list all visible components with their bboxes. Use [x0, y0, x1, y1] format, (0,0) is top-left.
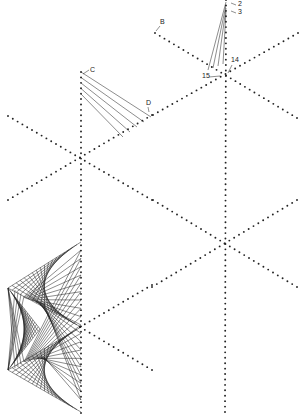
dot [225, 167, 227, 169]
dot [224, 292, 226, 294]
string-line [8, 288, 21, 364]
dot [80, 277, 82, 279]
dot [74, 159, 76, 161]
dot [224, 373, 226, 375]
dot [170, 274, 172, 276]
dot [219, 245, 221, 247]
dot [122, 182, 124, 184]
dot [80, 353, 82, 355]
dot [41, 179, 43, 181]
dot [168, 41, 170, 43]
dot [225, 135, 227, 137]
dot [225, 97, 227, 99]
dot [151, 286, 153, 288]
dot [205, 231, 207, 233]
dot [181, 216, 183, 218]
dot [80, 104, 82, 106]
dot [243, 231, 245, 233]
dot [55, 171, 57, 173]
dot [225, 42, 227, 44]
dot [80, 212, 82, 214]
dot [175, 272, 177, 274]
dot [89, 332, 91, 334]
label-leader [209, 76, 220, 77]
label-leader [231, 3, 236, 5]
dot [262, 219, 264, 221]
dot [80, 98, 82, 100]
dot [146, 287, 148, 289]
dot [137, 191, 139, 193]
dot [220, 72, 222, 74]
dot [225, 145, 227, 147]
dot [80, 114, 82, 116]
dot [224, 357, 226, 359]
dot [199, 257, 201, 259]
dot [286, 205, 288, 207]
dot [146, 366, 148, 368]
dot [65, 149, 67, 151]
dot [17, 193, 19, 195]
dot [258, 94, 260, 96]
dot [80, 363, 82, 365]
dot [69, 151, 71, 153]
dot [267, 216, 269, 218]
dot [224, 313, 226, 315]
dot [258, 54, 260, 56]
dot [296, 286, 298, 288]
dot [79, 157, 81, 159]
dot [80, 304, 82, 306]
dot [277, 106, 279, 108]
dot [80, 260, 82, 262]
dot [80, 369, 82, 371]
dot [31, 129, 33, 131]
dot [55, 143, 57, 145]
dot [234, 68, 236, 70]
dot [225, 210, 227, 212]
dot [238, 234, 240, 236]
dot [292, 35, 294, 37]
dot [80, 396, 82, 398]
dot [84, 160, 86, 162]
dot [224, 259, 226, 261]
dot [224, 227, 226, 229]
dot [182, 49, 184, 51]
dot [141, 290, 143, 292]
dot [244, 62, 246, 64]
dot [162, 205, 164, 207]
dot [113, 137, 115, 139]
dot [190, 263, 192, 265]
dot [296, 117, 298, 119]
dot [225, 151, 227, 153]
dot [108, 309, 110, 311]
dot [225, 156, 227, 158]
dot [263, 97, 265, 99]
label-leader [156, 26, 160, 31]
dot [225, 102, 227, 104]
dot [166, 277, 168, 279]
point-labels: 23BCD1415 [83, 0, 242, 112]
label-15: 15 [202, 72, 210, 79]
dot [164, 38, 166, 40]
dot [225, 113, 227, 115]
dot [230, 77, 232, 79]
dot [225, 178, 227, 180]
dot [178, 46, 180, 48]
dot [214, 237, 216, 239]
dot [151, 369, 153, 371]
dot [267, 269, 269, 271]
dot [185, 266, 187, 268]
string-line [43, 303, 81, 392]
dot [176, 214, 178, 216]
dot [161, 280, 163, 282]
dot [80, 347, 82, 349]
dot [268, 100, 270, 102]
string-line [81, 94, 123, 137]
dot [291, 202, 293, 204]
dot [176, 100, 178, 102]
dot [151, 114, 153, 116]
dot [225, 124, 227, 126]
dot [254, 57, 256, 59]
label-D: D [146, 99, 151, 106]
dot [195, 225, 197, 227]
dot [224, 346, 226, 348]
